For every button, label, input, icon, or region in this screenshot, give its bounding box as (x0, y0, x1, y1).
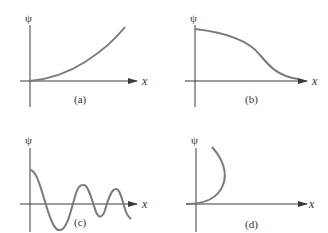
wavefunction-curve (30, 27, 125, 81)
y-axis-label: ψ (191, 134, 198, 146)
panel-label: (c) (74, 216, 87, 229)
panel-a: ψ x (a) (20, 12, 148, 107)
panel-label: (d) (245, 218, 258, 231)
panel-label: (a) (74, 93, 87, 106)
x-axis-label: x (141, 197, 148, 211)
figure: ψ x (a) ψ x (b) ψ x (c) ψ x (d) (0, 0, 328, 233)
panel-d: ψ x (d) (186, 134, 315, 232)
panel-label: (b) (245, 93, 258, 106)
y-axis-label: ψ (25, 134, 32, 146)
y-axis-label: ψ (25, 12, 32, 24)
wavefunction-curve (195, 29, 298, 79)
wavefunction-curve (186, 147, 225, 204)
y-axis-label: ψ (190, 12, 197, 24)
x-axis-label: x (141, 74, 148, 88)
panel-c: ψ x (c) (20, 134, 148, 232)
x-axis-label: x (308, 197, 315, 211)
panel-b: ψ x (b) (185, 12, 318, 107)
x-axis-label: x (311, 74, 318, 88)
